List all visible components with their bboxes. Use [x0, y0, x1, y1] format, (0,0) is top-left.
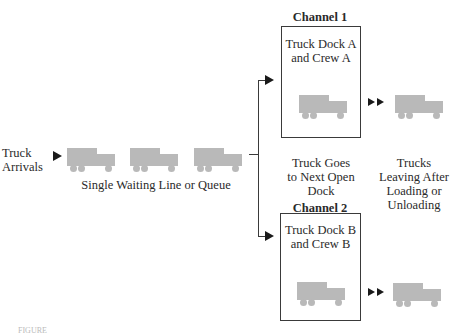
channel2-dock-label: Truck Dock B and Crew B: [281, 223, 360, 251]
figure-caption: FIGURE: [18, 326, 47, 334]
arrivals-label: Truck Arrivals: [2, 146, 43, 174]
channel2-leaving-truck-icon: [393, 283, 441, 309]
queue-truck-icon: [130, 148, 178, 174]
channel1-arrow-icon: [265, 75, 274, 85]
queue-truck-icon: [194, 148, 242, 174]
channel2-dock-box: Truck Dock B and Crew B: [280, 213, 361, 321]
arrival-arrow-icon: [53, 151, 62, 161]
routing-label: Truck Goes to Next Open Dock: [282, 156, 360, 198]
channel1-exit-arrow-icon: [377, 98, 384, 106]
branch-vertical-line: [258, 80, 259, 237]
leaving-label: Trucks Leaving After Loading or Unloadin…: [372, 156, 456, 212]
queue-truck-icon: [67, 148, 115, 174]
channel2-exit-arrow-icon: [368, 288, 375, 296]
channel1-dock-label: Truck Dock A and Crew A: [282, 37, 360, 65]
channel2-exit-arrow-icon: [377, 288, 384, 296]
queue-label: Single Waiting Line or Queue: [66, 178, 246, 192]
channel1-docked-truck-icon: [299, 95, 347, 121]
channel1-leaving-truck-icon: [395, 95, 443, 121]
channel2-arrow-icon: [265, 231, 274, 241]
channel1-exit-arrow-icon: [368, 98, 375, 106]
channel1-title: Channel 1: [280, 10, 360, 24]
channel1-dock-box: Truck Dock A and Crew A: [281, 26, 361, 138]
channel2-docked-truck-icon: [297, 282, 345, 308]
